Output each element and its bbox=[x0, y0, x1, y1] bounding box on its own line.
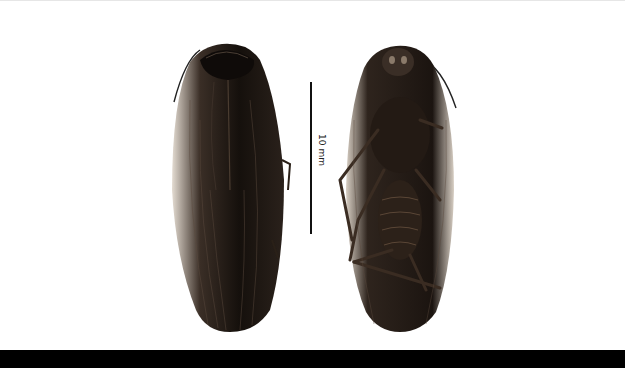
top-border bbox=[0, 0, 625, 1]
scale-bar bbox=[310, 82, 312, 234]
scale-bar-label: 10 mm bbox=[317, 134, 327, 166]
ventral-specimen bbox=[330, 40, 470, 335]
figure-canvas: 10 mm bbox=[0, 0, 625, 368]
bottom-black-bar bbox=[0, 350, 625, 368]
dorsal-specimen bbox=[160, 40, 300, 335]
